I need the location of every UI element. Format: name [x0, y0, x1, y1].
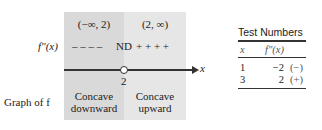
- table-bottom-rule: [238, 88, 306, 89]
- table-header-derivative: f″(x): [265, 44, 284, 55]
- axis-arrow-icon: [192, 66, 199, 74]
- table-header-rule: [238, 57, 306, 58]
- table-header-x: x: [240, 44, 245, 55]
- axis-label: x: [200, 62, 205, 74]
- table-row-1-value: −2: [264, 62, 284, 73]
- sign-positive: + + + +: [136, 40, 169, 52]
- open-point-icon: [120, 66, 128, 74]
- table-row-2-x: 3: [240, 74, 245, 85]
- point-label: 2: [121, 75, 127, 87]
- derivative-row-label: f″(x): [38, 40, 58, 52]
- table-title: Test Numbers: [238, 26, 303, 38]
- concavity-left: Concave downward: [64, 90, 124, 114]
- table-row-2-value: 2: [264, 74, 284, 85]
- table-row-1-x: 1: [240, 62, 245, 73]
- concavity-left-line1: Concave: [64, 90, 124, 102]
- concavity-right-line2: upward: [124, 102, 186, 114]
- interval-label-left: (−∞, 2): [64, 18, 124, 30]
- concavity-right-line1: Concave: [124, 90, 186, 102]
- concavity-right: Concave upward: [124, 90, 186, 114]
- sign-negative: – – – –: [72, 40, 102, 52]
- concavity-left-line2: downward: [64, 102, 124, 114]
- sign-not-defined: ND: [116, 40, 132, 52]
- graph-row-label: Graph of f: [4, 96, 50, 108]
- table-row-1-sign: (−): [290, 62, 303, 73]
- table-top-rule: [238, 40, 306, 42]
- interval-label-right: (2, ∞): [124, 18, 186, 30]
- x-axis: [64, 69, 193, 71]
- table-row-2-sign: (+): [290, 74, 303, 85]
